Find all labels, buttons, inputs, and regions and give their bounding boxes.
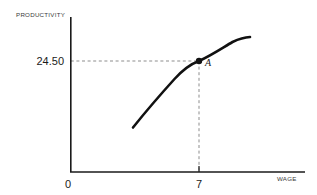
point-a-label: A — [204, 57, 212, 68]
productivity-wage-chart: PRODUCTIVITY WAGE 24.50 0 7 A — [0, 0, 317, 195]
point-a-marker — [196, 58, 202, 64]
x-axis-title: WAGE — [277, 175, 297, 182]
x-axis-origin-label: 0 — [65, 178, 71, 190]
y-axis-value-label: 24.50 — [36, 55, 64, 67]
x-axis-tick-label-7: 7 — [196, 178, 202, 190]
y-axis-title: PRODUCTIVITY — [16, 11, 65, 18]
